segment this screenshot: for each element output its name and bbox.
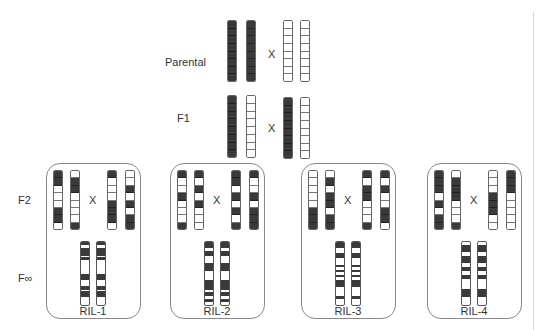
dark-band [336,270,344,273]
light-segment [326,171,334,178]
dark-segment [435,201,443,208]
dark-band [462,245,470,253]
dark-segment [228,74,236,81]
dark-band [205,251,213,256]
dark-band [462,289,470,298]
light-segment [247,127,255,135]
ril-chromosome [351,241,361,306]
light-segment [195,193,203,200]
dark-segment [232,171,240,178]
light-segment [247,143,255,151]
dark-segment [284,106,292,114]
dark-band [478,289,486,298]
light-segment [301,98,309,106]
dark-segment [435,215,443,222]
light-segment [284,52,292,60]
cross-symbol: X [89,194,96,206]
light-segment [232,186,240,193]
light-segment [284,74,292,81]
ril-label: RIL-4 [444,305,504,317]
dark-segment [435,223,443,229]
light-segment [435,193,443,200]
cross-symbol: X [344,194,351,206]
light-segment [301,151,309,158]
dark-band [205,263,213,271]
light-segment [126,208,134,215]
dark-segment [228,59,236,67]
light-segment [381,178,389,185]
dark-segment [54,208,62,215]
dark-segment [108,208,116,215]
dark-segment [71,178,79,185]
dark-segment [228,96,236,104]
f2-chromosome [70,170,80,230]
light-segment [435,208,443,215]
dark-segment [250,171,258,178]
dark-segment [489,193,497,200]
dark-segment [247,36,255,44]
dark-segment [381,208,389,215]
light-segment [250,178,258,185]
dark-band [462,256,470,264]
dark-band [336,280,344,288]
dark-segment [228,21,236,29]
dark-segment [108,215,116,222]
light-segment [452,171,460,178]
dark-band [221,263,229,271]
light-segment [108,178,116,185]
light-segment [126,193,134,200]
f2-chromosome [506,170,516,230]
dark-segment [126,201,134,208]
dark-segment [284,144,292,152]
light-segment [247,112,255,120]
light-segment [178,186,186,193]
light-segment [301,144,309,152]
dark-segment [284,121,292,129]
light-segment [309,186,317,193]
ril-chromosome [477,241,487,306]
light-segment [326,208,334,215]
dark-band [81,248,89,256]
dark-segment [71,186,79,193]
dark-segment [452,223,460,229]
dark-band [97,274,105,280]
f1-chromosome [283,97,293,159]
light-segment [247,104,255,112]
ril-chromosome [80,241,90,306]
ril-label: RIL-3 [318,305,378,317]
ril-chromosome [204,241,214,306]
cross-symbol: X [213,194,220,206]
dark-segment [326,178,334,185]
light-segment [250,201,258,208]
light-segment [326,186,334,193]
dark-segment [247,44,255,52]
light-segment [195,208,203,215]
light-segment [232,215,240,222]
light-segment [363,215,371,222]
dark-band [97,248,105,256]
dark-segment [381,171,389,178]
light-segment [452,208,460,215]
f2-chromosome [194,170,204,230]
dark-band [81,242,89,245]
light-segment [489,186,497,193]
dark-band [336,296,344,299]
dark-segment [381,186,389,193]
dark-segment [232,223,240,229]
light-segment [284,21,292,29]
dark-band [221,299,229,302]
dark-segment [507,178,515,185]
light-segment [301,74,309,81]
light-segment [284,59,292,67]
light-segment [489,223,497,229]
dark-segment [228,104,236,112]
dark-band [81,291,89,297]
dark-band [97,242,105,245]
dark-segment [195,171,203,178]
dark-segment [54,178,62,185]
dark-band [462,267,470,271]
cross-symbol: X [268,48,275,60]
light-segment [54,193,62,200]
f2-chromosome [308,170,318,230]
f2-chromosome [434,170,444,230]
